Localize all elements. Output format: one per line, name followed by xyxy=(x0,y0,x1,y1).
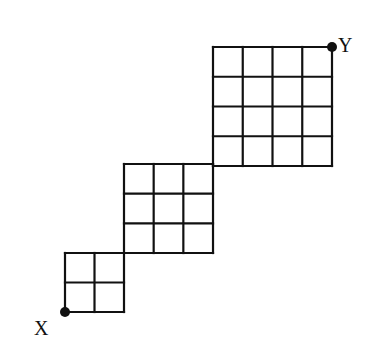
point-x-dot xyxy=(60,307,70,317)
points: XY xyxy=(34,34,352,339)
grid-path-diagram: XY xyxy=(0,0,379,357)
point-y-label: Y xyxy=(338,34,352,56)
point-x-label: X xyxy=(34,317,49,339)
medium-grid xyxy=(124,164,213,253)
point-y-dot xyxy=(327,42,337,52)
large-grid xyxy=(213,47,332,166)
grids xyxy=(65,47,332,312)
small-grid xyxy=(65,253,124,312)
